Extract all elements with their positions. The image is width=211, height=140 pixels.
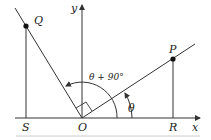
rotation-diagram: Q P y x S O R θ θ + 90° — [0, 0, 211, 140]
label-theta: θ — [128, 102, 135, 115]
label-q: Q — [34, 14, 43, 27]
right-angle-marker — [76, 102, 92, 111]
point-q — [23, 23, 28, 28]
point-p — [170, 56, 175, 61]
label-y-axis: y — [70, 2, 78, 15]
label-theta-plus-90: θ + 90° — [89, 72, 124, 82]
label-p: P — [168, 43, 177, 56]
label-r: R — [168, 121, 177, 134]
label-x-axis: x — [192, 121, 199, 134]
label-o: O — [78, 121, 87, 134]
label-s: S — [22, 121, 30, 134]
